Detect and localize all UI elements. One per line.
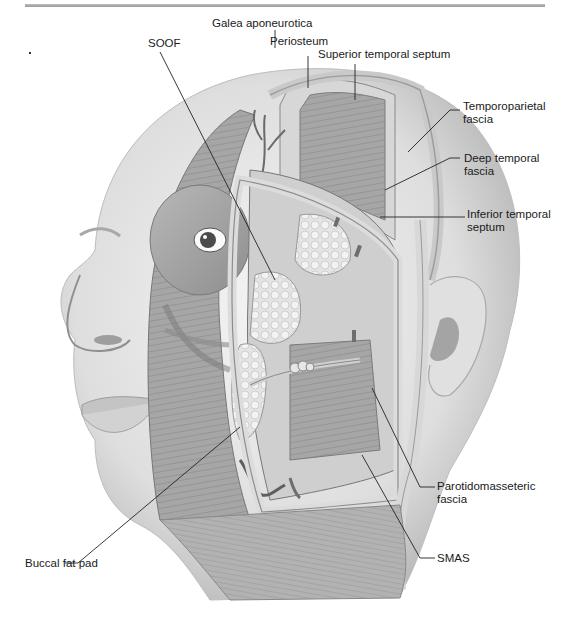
label-inferior-temporal-septum: Inferior temporal septum bbox=[467, 208, 551, 234]
label-temporoparietal-fascia: Temporoparietal fascia bbox=[463, 100, 545, 126]
label-line-2: fascia bbox=[463, 113, 545, 126]
label-soof: SOOF bbox=[148, 37, 181, 50]
label-line-2: fascia bbox=[464, 165, 539, 178]
label-galea-aponeurotica: Galea aponeurotica bbox=[212, 17, 312, 30]
label-superior-temporal-septum: Superior temporal septum bbox=[318, 48, 450, 61]
label-line-2: fascia bbox=[437, 493, 535, 506]
label-deep-temporal-fascia: Deep temporal fascia bbox=[464, 152, 539, 178]
neck-platysma bbox=[160, 505, 406, 600]
label-line-1: Deep temporal bbox=[464, 152, 539, 165]
label-line-1: Inferior temporal bbox=[467, 208, 551, 221]
label-line-1: Parotidomasseteric bbox=[437, 480, 535, 493]
label-line-1: Temporoparietal bbox=[463, 100, 545, 113]
label-line-2: septum bbox=[467, 221, 551, 234]
label-periosteum: Periosteum bbox=[270, 35, 328, 48]
label-smas: SMAS bbox=[437, 552, 470, 565]
label-buccal-fat-pad: Buccal fat pad bbox=[25, 557, 98, 570]
label-parotidomasseteric-fascia: Parotidomasseteric fascia bbox=[437, 480, 535, 506]
anatomy-illustration bbox=[0, 0, 570, 618]
